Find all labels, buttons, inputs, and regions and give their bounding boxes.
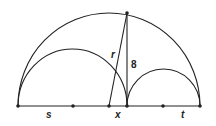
geometry-diagram: s x t r 8 xyxy=(0,0,216,126)
label-x: x xyxy=(114,109,121,120)
point-split xyxy=(125,104,129,108)
point-t-center xyxy=(161,104,165,108)
point-left-end xyxy=(16,104,20,108)
point-top xyxy=(125,11,129,15)
point-big-center xyxy=(107,104,111,108)
point-s-center xyxy=(71,104,75,108)
right-semicircle xyxy=(127,69,200,106)
label-height-8: 8 xyxy=(131,59,137,70)
label-t: t xyxy=(181,109,185,120)
label-r: r xyxy=(111,49,116,60)
label-s: s xyxy=(46,109,52,120)
large-semicircle xyxy=(18,13,200,106)
point-right-end xyxy=(198,104,202,108)
